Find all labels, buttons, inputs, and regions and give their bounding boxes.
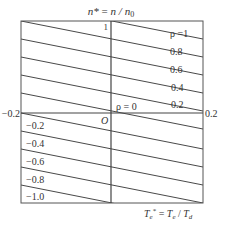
rho-label-1: ρ =1 [170,28,188,39]
chart-title: n* = n / n0 [88,5,134,19]
origin-label: O [101,115,108,126]
x-axis-label: Te* = Te / Td [144,207,193,221]
rho-family-diagram: n* = n / n0 −0.2 0.2 1 O ρ =1 0.8 0.6 0.… [0,0,230,228]
rho-label-neg0.6: −0.6 [26,156,44,167]
rho-label-0.4: 0.4 [171,82,184,93]
rho-label-0.8: 0.8 [170,46,183,57]
y-tick-top: 1 [104,22,109,32]
rho-label-neg0.4: −0.4 [26,138,44,149]
rho-label-0.2: 0.2 [171,99,184,110]
rho-label-neg0.2: −0.2 [26,120,44,131]
rho-label-0.6: 0.6 [170,64,183,75]
rho-label-0: ρ = 0 [116,101,137,112]
x-tick-left: −0.2 [2,108,20,119]
rho-label-neg0.8: −0.8 [26,174,44,185]
x-tick-right: 0.2 [205,108,218,119]
rho-label-neg1.0: −1.0 [26,191,44,202]
